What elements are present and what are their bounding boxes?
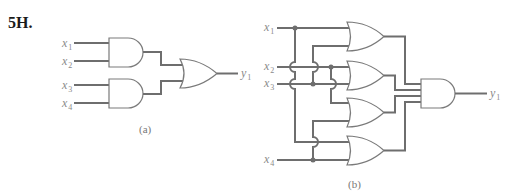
input-label-x2: x2 bbox=[61, 54, 72, 70]
wire-and2-or bbox=[143, 81, 183, 94]
input-label-x2: x2 bbox=[263, 59, 274, 75]
and-gate bbox=[421, 79, 455, 108]
and-gate-1 bbox=[109, 38, 143, 67]
output-label-y1: y1 bbox=[489, 86, 500, 102]
or-gate-2 bbox=[347, 61, 384, 90]
junction-x2 bbox=[329, 65, 334, 70]
wire-or3-and bbox=[384, 96, 421, 113]
output-label-y1: y1 bbox=[240, 66, 251, 82]
or-gate-3 bbox=[347, 98, 384, 127]
caption-b: (b) bbox=[348, 178, 361, 191]
or-gate-4 bbox=[347, 136, 384, 165]
input-label-x4: x4 bbox=[263, 152, 274, 168]
circuit-b: x1 x2 x3 x4 y1 bbox=[263, 20, 500, 191]
junction-x1 bbox=[293, 26, 298, 31]
input-label-x4: x4 bbox=[61, 96, 72, 112]
junction-x3 bbox=[311, 82, 316, 87]
input-label-x3: x3 bbox=[61, 78, 72, 94]
or-gate bbox=[180, 59, 217, 88]
wire-or4-and bbox=[384, 102, 421, 151]
bus-x4 bbox=[313, 121, 349, 160]
wire-and1-or bbox=[143, 52, 183, 65]
input-label-x3: x3 bbox=[263, 76, 274, 92]
logic-diagrams: x1 x2 x3 x4 y1 (a) x1 x2 x3 x4 bbox=[0, 0, 520, 192]
wire-or2-and bbox=[384, 76, 421, 91]
or-gate-1 bbox=[347, 22, 384, 51]
caption-a: (a) bbox=[139, 123, 152, 136]
circuit-a: x1 x2 x3 x4 y1 (a) bbox=[61, 36, 251, 136]
input-label-x1: x1 bbox=[61, 36, 72, 52]
and-gate-2 bbox=[109, 79, 143, 108]
junction-x4 bbox=[311, 158, 316, 163]
wire-or1-and bbox=[384, 37, 421, 85]
input-label-x1: x1 bbox=[263, 20, 274, 36]
